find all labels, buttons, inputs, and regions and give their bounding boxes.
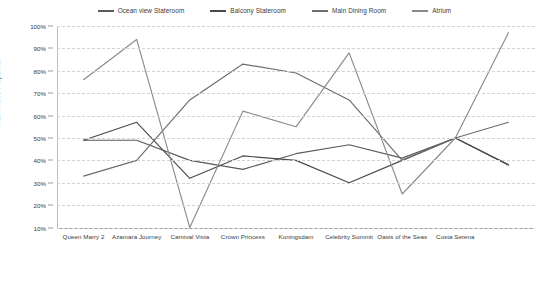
y-tick-mark bbox=[48, 70, 53, 71]
x-tick-label: Crown Princess bbox=[221, 233, 265, 240]
legend-item-atrium[interactable]: Atrium bbox=[412, 7, 451, 14]
y-tick-mark bbox=[48, 227, 53, 228]
y-tick-label: 70% bbox=[0, 90, 46, 97]
gridline bbox=[57, 183, 535, 184]
y-tick-mark bbox=[48, 205, 53, 206]
plot-area bbox=[57, 26, 535, 228]
y-tick-label: 10% bbox=[0, 224, 46, 231]
legend-swatch-icon bbox=[210, 10, 226, 12]
y-tick-label: 80% bbox=[0, 67, 46, 74]
gridline bbox=[57, 93, 535, 94]
legend-label: Ocean view Stateroom bbox=[118, 7, 185, 14]
x-tick-label: Azamara Journey bbox=[112, 233, 161, 240]
series-line-balcony-stateroom bbox=[84, 122, 509, 182]
y-tick-label: 40% bbox=[0, 157, 46, 164]
y-tick-mark bbox=[48, 182, 53, 183]
y-tick-label: 100% bbox=[0, 23, 46, 30]
series-line-main-dining-room bbox=[84, 64, 509, 176]
x-tick-label: Costa Serena bbox=[436, 233, 474, 240]
gridline bbox=[57, 26, 535, 27]
y-tick-label: 60% bbox=[0, 112, 46, 119]
legend-label: Balcony Stateroom bbox=[230, 7, 286, 14]
x-tick-label: Carnival Vista bbox=[170, 233, 209, 240]
gridline bbox=[57, 205, 535, 206]
gridline bbox=[57, 160, 535, 161]
legend-label: Atrium bbox=[432, 7, 451, 14]
legend-swatch-icon bbox=[412, 10, 428, 12]
legend-item-main-dining-room[interactable]: Main Dining Room bbox=[312, 7, 386, 14]
legend-label: Main Dining Room bbox=[332, 7, 386, 14]
y-tick-mark bbox=[48, 48, 53, 49]
legend-swatch-icon bbox=[98, 10, 114, 12]
x-tick-label: Celebrity Summit bbox=[325, 233, 373, 240]
y-tick-label: 90% bbox=[0, 45, 46, 52]
y-tick-mark bbox=[48, 160, 53, 161]
gridline bbox=[57, 48, 535, 49]
gridline bbox=[57, 228, 535, 229]
gridline bbox=[57, 71, 535, 72]
x-tick-label: Queen Marry 2 bbox=[63, 233, 105, 240]
chart-legend: Ocean view StateroomBalcony StateroomMai… bbox=[0, 7, 549, 14]
gridline bbox=[57, 116, 535, 117]
y-tick-label: 50% bbox=[0, 135, 46, 142]
legend-item-balcony-stateroom[interactable]: Balcony Stateroom bbox=[210, 7, 286, 14]
x-tick-label: Oasis of the Seas bbox=[377, 233, 427, 240]
y-tick-label: 30% bbox=[0, 179, 46, 186]
x-tick-label: Koningsdam bbox=[279, 233, 314, 240]
series-lines bbox=[57, 26, 535, 228]
line-chart: Ocean view StateroomBalcony StateroomMai… bbox=[0, 0, 549, 286]
gridline bbox=[57, 138, 535, 139]
y-tick-mark bbox=[48, 115, 53, 116]
y-tick-label: 20% bbox=[0, 202, 46, 209]
y-tick-mark bbox=[48, 93, 53, 94]
y-tick-mark bbox=[48, 26, 53, 27]
series-line-atrium bbox=[84, 33, 509, 228]
y-tick-mark bbox=[48, 138, 53, 139]
legend-item-ocean-view-stateroom[interactable]: Ocean view Stateroom bbox=[98, 7, 185, 14]
legend-swatch-icon bbox=[312, 10, 328, 12]
